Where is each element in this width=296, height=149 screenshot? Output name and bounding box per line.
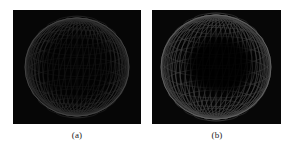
panel-b-caption: (b) [187,130,247,140]
panel-a-image [13,10,141,124]
ellipsoid-mesh-a [13,10,141,124]
figure-container: (a) (b) [0,0,296,149]
ellipsoid-mesh-b [152,10,281,124]
panel-a-caption: (a) [47,130,107,140]
panel-b-image [152,10,281,124]
